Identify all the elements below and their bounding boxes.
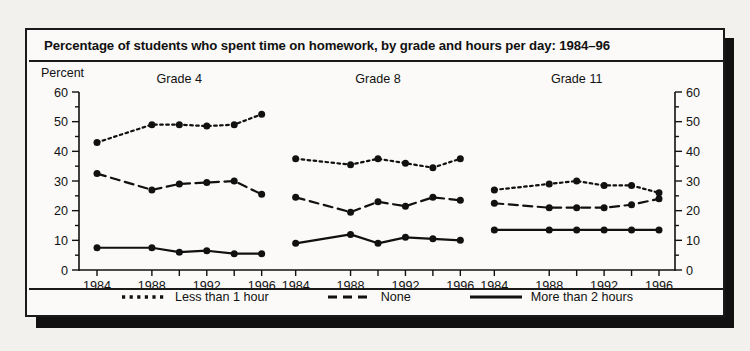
data-point — [176, 180, 183, 187]
y-tick-label-right: 0 — [686, 264, 693, 278]
legend-label: None — [381, 290, 411, 304]
legend-item: Less than 1 hour — [121, 290, 269, 304]
data-point — [601, 182, 608, 189]
dashed-line-swatch — [327, 292, 373, 302]
data-point — [347, 161, 354, 168]
series-line-dotted — [97, 114, 262, 142]
data-point — [546, 180, 553, 187]
data-point — [94, 170, 101, 177]
data-point — [203, 247, 210, 254]
data-point — [176, 249, 183, 256]
data-point — [601, 226, 608, 233]
y-tick-label-left: 10 — [54, 234, 68, 248]
data-point — [148, 186, 155, 193]
y-tick-label-right: 40 — [686, 145, 700, 159]
y-tick-label-left: 60 — [54, 86, 68, 100]
y-tick-label-right: 60 — [686, 86, 700, 100]
y-tick-label-right: 20 — [686, 204, 700, 218]
data-point — [375, 240, 382, 247]
panel-title: Grade 11 — [551, 72, 603, 86]
data-point — [601, 204, 608, 211]
figure-card: Percentage of students who spent time on… — [25, 28, 725, 317]
chart-legend: Less than 1 hourNoneMore than 2 hours — [27, 288, 727, 314]
data-point — [347, 209, 354, 216]
data-point — [457, 237, 464, 244]
data-point — [491, 200, 498, 207]
data-point — [628, 201, 635, 208]
plot-area: 00101020203030404050506060Grade 41984198… — [27, 30, 727, 319]
figure-root: Percentage of students who spent time on… — [0, 0, 750, 351]
legend-item: More than 2 hours — [469, 290, 633, 304]
data-point — [375, 155, 382, 162]
legend-item: None — [327, 290, 411, 304]
y-tick-label-left: 50 — [54, 115, 68, 129]
data-point — [402, 203, 409, 210]
data-point — [546, 204, 553, 211]
legend-label: More than 2 hours — [531, 290, 633, 304]
dotted-line-swatch — [121, 292, 167, 302]
y-tick-label-right: 10 — [686, 234, 700, 248]
data-point — [429, 194, 436, 201]
data-point — [148, 121, 155, 128]
data-point — [292, 194, 299, 201]
data-point — [457, 197, 464, 204]
data-point — [347, 231, 354, 238]
data-point — [628, 182, 635, 189]
data-point — [402, 234, 409, 241]
data-point — [231, 178, 238, 185]
data-point — [292, 155, 299, 162]
data-point — [573, 226, 580, 233]
data-point — [94, 244, 101, 251]
y-tick-label-left: 30 — [54, 175, 68, 189]
data-point — [258, 111, 265, 118]
panel-title: Grade 4 — [157, 72, 203, 86]
data-point — [546, 226, 553, 233]
legend-label: Less than 1 hour — [175, 290, 269, 304]
data-point — [429, 235, 436, 242]
y-tick-label-right: 50 — [686, 115, 700, 129]
y-tick-label-left: 40 — [54, 145, 68, 159]
data-point — [429, 164, 436, 171]
data-point — [491, 226, 498, 233]
data-point — [203, 123, 210, 130]
data-point — [573, 178, 580, 185]
y-tick-label-right: 30 — [686, 175, 700, 189]
data-point — [402, 160, 409, 167]
data-point — [573, 204, 580, 211]
data-point — [628, 226, 635, 233]
data-point — [656, 226, 663, 233]
y-tick-label-left: 20 — [54, 204, 68, 218]
data-point — [231, 121, 238, 128]
y-tick-label-left: 0 — [61, 264, 68, 278]
data-point — [457, 155, 464, 162]
data-point — [94, 139, 101, 146]
data-point — [491, 186, 498, 193]
data-point — [231, 250, 238, 257]
data-point — [375, 198, 382, 205]
legend-item-list: Less than 1 hourNoneMore than 2 hours — [27, 290, 727, 304]
line-chart: 00101020203030404050506060Grade 41984198… — [27, 30, 727, 290]
data-point — [292, 240, 299, 247]
panel-title: Grade 8 — [355, 72, 401, 86]
data-point — [258, 191, 265, 198]
data-point — [258, 250, 265, 257]
data-point — [203, 179, 210, 186]
data-point — [148, 244, 155, 251]
data-point — [176, 121, 183, 128]
solid-line-swatch — [469, 292, 523, 302]
data-point — [656, 195, 663, 202]
